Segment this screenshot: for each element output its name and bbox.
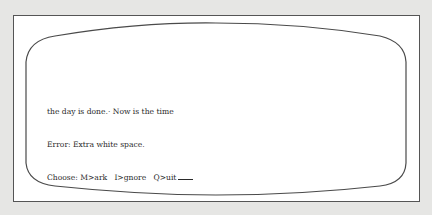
error-message: Error: Extra white space.: [47, 139, 193, 150]
input-cursor[interactable]: [178, 172, 193, 180]
option-mark[interactable]: M>ark: [80, 173, 107, 182]
text-line-content: the day is done.· Now is the time: [47, 106, 193, 117]
option-quit[interactable]: Q>uit: [153, 173, 176, 182]
terminal-output: the day is done.· Now is the time Error:…: [47, 84, 193, 205]
choose-prompt: Choose: M>ark I>gnore Q>uit: [47, 172, 193, 183]
terminal-illustration: the day is done.· Now is the time Error:…: [0, 0, 432, 215]
option-ignore[interactable]: I>gnore: [114, 173, 146, 182]
prompt-label: Choose:: [47, 173, 78, 182]
